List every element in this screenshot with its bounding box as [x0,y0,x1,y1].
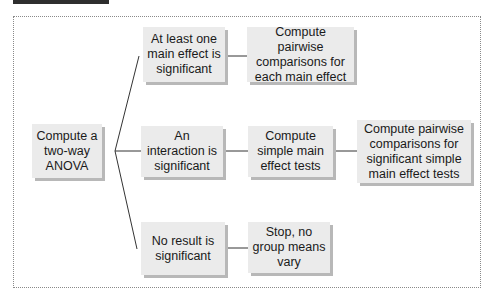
node-pairwise-main-effect: Compute pairwise comparisons for each ma… [247,27,354,82]
node-stop-no-group-means-vary: Stop, no group means vary [248,222,330,273]
node-compute-two-way-anova: Compute a two-way ANOVA [32,124,102,178]
node-pairwise-simple-main-effect: Compute pairwise comparisons for signifi… [357,120,471,183]
node-no-result-significant: No result is significant [141,222,225,275]
node-label: Compute pairwise comparisons for each ma… [251,25,350,85]
edge-start-no-result [115,151,137,249]
node-label: No result is significant [145,234,221,264]
node-simple-main-effect-tests: Compute simple main effect tests [248,126,333,177]
node-label: Compute a two-way ANOVA [36,129,98,174]
node-label: Stop, no group means vary [252,225,326,270]
node-interaction-significant: An interaction is significant [141,126,223,177]
node-main-effect-significant: At least one main effect is significant [143,27,225,82]
edge-start-main-effect [115,56,139,151]
node-label: An interaction is significant [145,129,219,174]
node-label: At least one main effect is significant [147,32,221,77]
node-label: Compute simple main effect tests [252,129,329,174]
node-label: Compute pairwise comparisons for signifi… [361,122,467,182]
